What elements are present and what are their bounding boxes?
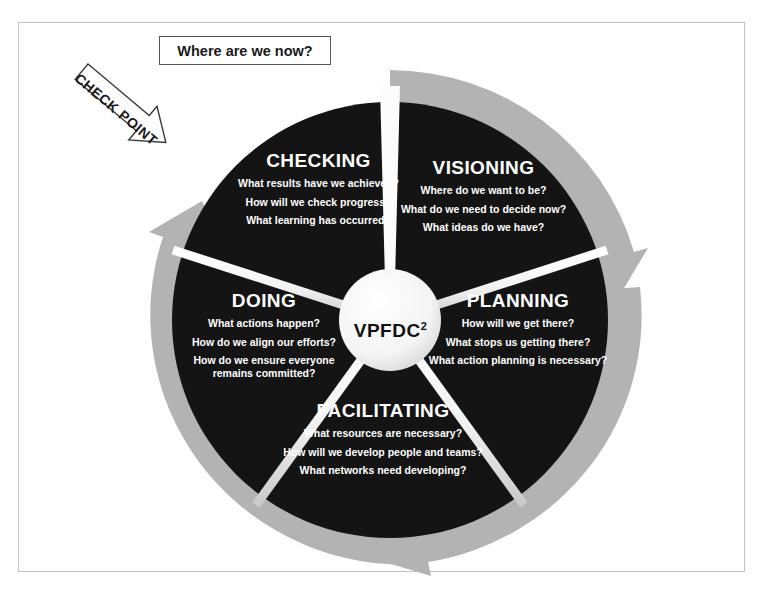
check-point-arrow-icon	[70, 52, 260, 177]
where-are-we-now-callout: Where are we now?	[159, 36, 331, 65]
wheel-hub	[339, 269, 441, 371]
callout-label: Where are we now?	[177, 43, 312, 59]
diagram-page: CHECKING What results have we achieved? …	[0, 0, 771, 605]
